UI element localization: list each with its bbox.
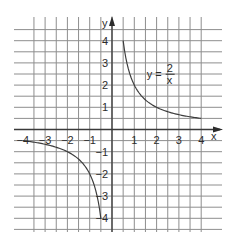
y-tick-label: −1 xyxy=(95,146,108,158)
x-tick-label: −1 xyxy=(83,134,96,146)
x-tick-label: 3 xyxy=(176,134,182,146)
y-tick-label: 1 xyxy=(102,101,108,113)
x-tick-label: −4 xyxy=(17,134,30,146)
equation-numerator: 2 xyxy=(167,62,173,74)
equation-lhs: y = xyxy=(147,68,162,80)
grid-lines xyxy=(14,17,222,232)
hyperbola-chart: x y −4−3−2−112344321−1−2−3−4 y = 2 x xyxy=(0,0,235,249)
y-tick-label: 2 xyxy=(102,79,108,91)
y-tick-label: 3 xyxy=(102,57,108,69)
y-tick-label: −3 xyxy=(95,190,108,202)
y-tick-label: −2 xyxy=(95,168,108,180)
x-tick-label: 4 xyxy=(198,134,204,146)
equation-denominator: x xyxy=(167,74,173,86)
y-axis-label: y xyxy=(102,17,108,29)
x-tick-label: −3 xyxy=(39,134,52,146)
x-axis-label: x xyxy=(211,130,217,142)
x-tick-label: 1 xyxy=(131,134,137,146)
y-axis-arrow-icon xyxy=(109,16,115,26)
curve-positive-branch xyxy=(123,41,201,119)
y-tick-label: 4 xyxy=(102,35,108,47)
x-tick-label: 2 xyxy=(154,134,160,146)
curve-negative-branch xyxy=(23,141,101,219)
x-tick-label: −2 xyxy=(61,134,74,146)
equation-label: y = 2 x xyxy=(147,62,175,86)
y-tick-label: −4 xyxy=(95,212,108,224)
